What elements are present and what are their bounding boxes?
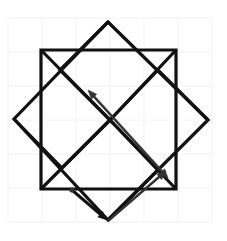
geometry-figure-svg	[0, 0, 227, 241]
origin-dot	[69, 187, 74, 192]
marker-layer	[69, 187, 74, 192]
geometry-figure-container	[0, 0, 227, 241]
